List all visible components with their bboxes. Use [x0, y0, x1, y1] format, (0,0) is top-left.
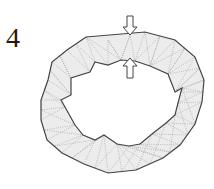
ring-mesh-diagram	[0, 0, 214, 189]
ring-mesh-fill	[41, 32, 204, 173]
arrow-down-icon	[123, 16, 137, 35]
